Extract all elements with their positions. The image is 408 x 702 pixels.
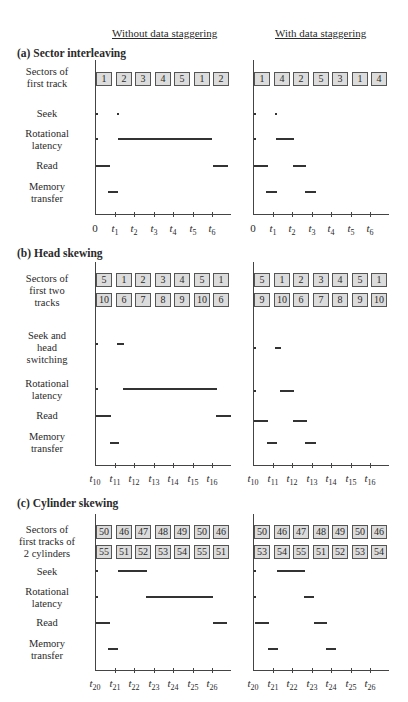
row-label-line: transfer xyxy=(2,443,92,455)
axis-tick xyxy=(212,463,213,468)
axis-tick-label: t12 xyxy=(128,472,139,487)
sector-box: 5 xyxy=(254,273,270,287)
row-label-line: Read xyxy=(2,410,92,422)
axis-tick xyxy=(351,668,352,673)
row-label: Read xyxy=(2,160,92,172)
read-bar xyxy=(213,622,227,624)
row-label: Seek xyxy=(2,108,92,120)
seek-head-switching-marker xyxy=(254,347,256,349)
axis-tick-label: t23 xyxy=(306,677,317,692)
axis-tick xyxy=(273,668,274,673)
axis-tick-label: t15 xyxy=(187,472,198,487)
memory-transfer-bar xyxy=(326,648,336,650)
axis-tick-label: t4 xyxy=(327,222,334,237)
axis-tick xyxy=(212,668,213,673)
read-bar xyxy=(96,415,111,417)
sector-box: 1 xyxy=(371,273,387,287)
sector-box: 9 xyxy=(174,293,190,307)
axis-tick-label: t11 xyxy=(110,472,121,487)
axis-tick xyxy=(273,463,274,468)
sector-box: 50 xyxy=(352,525,368,539)
row-label-line: switching xyxy=(2,354,92,366)
axis-tick-label: t25 xyxy=(345,677,356,692)
axis-tick xyxy=(312,463,313,468)
row-label: Read xyxy=(2,617,92,629)
axis-tick-label: t1 xyxy=(111,222,118,237)
row-label: Rotationallatency xyxy=(2,128,92,152)
sector-box: 9 xyxy=(352,293,368,307)
memory-transfer-bar xyxy=(266,191,277,193)
sector-box: 48 xyxy=(313,525,329,539)
axis-tick-label: t6 xyxy=(366,222,373,237)
sector-box: 51 xyxy=(116,545,132,559)
read-bar xyxy=(293,165,306,167)
read-bar xyxy=(96,622,110,624)
sector-box: 5 xyxy=(194,273,210,287)
axis-tick-label: t10 xyxy=(247,472,258,487)
seek-marker xyxy=(275,113,277,115)
seek-marker xyxy=(254,113,256,115)
sector-box: 2 xyxy=(116,72,132,86)
row-label-line: 2 cylinders xyxy=(2,548,92,560)
axis-tick-label: t11 xyxy=(268,472,279,487)
axis-tick-label: t5 xyxy=(189,222,196,237)
sector-box: 50 xyxy=(194,525,210,539)
axis-tick-label: t22 xyxy=(286,677,297,692)
seek-head-switching-marker xyxy=(96,343,98,345)
axis-tick xyxy=(312,668,313,673)
row-label: Read xyxy=(2,410,92,422)
sector-box: 6 xyxy=(116,293,132,307)
axis-tick xyxy=(115,463,116,468)
memory-transfer-bar xyxy=(267,442,277,444)
memory-transfer-bar xyxy=(110,442,119,444)
axis-tick xyxy=(370,668,371,673)
read-bar xyxy=(314,622,327,624)
axis-tick xyxy=(173,668,174,673)
axis-tick xyxy=(115,668,116,673)
axis-tick xyxy=(134,668,135,673)
sector-box: 55 xyxy=(96,545,112,559)
axis-tick-label: t16 xyxy=(364,472,375,487)
row-label-line: Seek xyxy=(2,566,92,578)
axis-tick-label: t23 xyxy=(148,677,159,692)
sector-box: 47 xyxy=(293,525,309,539)
axis-tick xyxy=(370,463,371,468)
sector-box: 46 xyxy=(371,525,387,539)
seek-marker xyxy=(117,113,119,115)
axis-tick xyxy=(212,212,213,217)
rotational-latency-bar xyxy=(304,596,314,598)
memory-transfer-bar xyxy=(268,648,278,650)
sector-box: 55 xyxy=(293,545,309,559)
axis-tick xyxy=(173,212,174,217)
seek-marker xyxy=(96,113,98,115)
sector-box: 1 xyxy=(254,72,270,86)
row-label: Seek xyxy=(2,566,92,578)
row-label-line: Memory xyxy=(2,638,92,650)
sector-box: 53 xyxy=(254,545,270,559)
section-title: (c) Cylinder skewing xyxy=(17,497,118,509)
axis-tick xyxy=(154,668,155,673)
axis-tick-label: t1 xyxy=(269,222,276,237)
sector-box: 10 xyxy=(194,293,210,307)
memory-transfer-bar xyxy=(305,442,316,444)
row-label: Rotationallatency xyxy=(2,586,92,610)
row-label-line: Memory xyxy=(2,181,92,193)
row-label: Seek andheadswitching xyxy=(2,330,92,366)
row-label-line: Sectors of xyxy=(2,524,92,536)
sector-box: 4 xyxy=(332,273,348,287)
axis-tick xyxy=(193,212,194,217)
rotational-latency-marker xyxy=(254,390,256,392)
axis-tick-label: t3 xyxy=(150,222,157,237)
row-label: Memorytransfer xyxy=(2,638,92,662)
read-bar xyxy=(254,420,268,422)
row-label-line: Memory xyxy=(2,431,92,443)
sector-box: 3 xyxy=(155,273,171,287)
axis-tick-label: t24 xyxy=(325,677,336,692)
read-bar xyxy=(216,415,231,417)
axis-tick xyxy=(331,668,332,673)
sector-box: 1 xyxy=(274,273,290,287)
sector-box: 55 xyxy=(194,545,210,559)
row-label-line: first two xyxy=(2,285,92,297)
column-header-with-staggering: With data staggering xyxy=(275,27,366,39)
row-label-line: Read xyxy=(2,617,92,629)
